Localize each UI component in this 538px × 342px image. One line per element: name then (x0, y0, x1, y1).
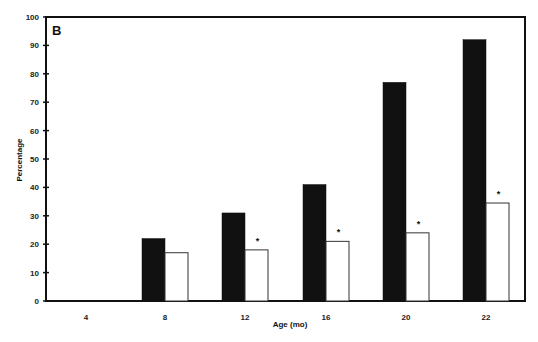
x-tick-label: 16 (322, 313, 331, 322)
y-tick-label: 60 (30, 127, 39, 136)
bar (222, 213, 245, 301)
significance-asterisk: * (256, 236, 260, 246)
bar (245, 250, 268, 301)
y-tick-label: 90 (30, 41, 39, 50)
y-tick-label: 80 (30, 70, 39, 79)
significance-asterisk: * (337, 227, 341, 237)
y-tick-label: 10 (30, 269, 39, 278)
x-tick-label: 20 (402, 313, 411, 322)
y-tick-label: 20 (30, 240, 39, 249)
y-tick-label: 30 (30, 212, 39, 221)
y-tick-label: 100 (26, 13, 40, 22)
y-tick-label: 0 (35, 297, 40, 306)
significance-asterisk: * (497, 189, 501, 199)
bar (383, 82, 406, 301)
bars: **** (142, 40, 509, 301)
y-tick-label: 50 (30, 155, 39, 164)
bar (406, 233, 429, 301)
bar (463, 40, 486, 301)
y-tick-label: 70 (30, 98, 39, 107)
bar (326, 241, 349, 301)
bar (142, 239, 165, 301)
bar (165, 253, 188, 301)
y-axis-title: Percentage (15, 138, 24, 182)
x-tick-label: 22 (482, 313, 491, 322)
bar (303, 185, 326, 301)
x-tick-label: 12 (241, 313, 250, 322)
x-tick-label: 8 (163, 313, 168, 322)
panel-label: B (52, 23, 61, 38)
bar-chart: 0102030405060708090100 **** 4812162022 B… (0, 0, 538, 342)
plot-frame (46, 17, 525, 301)
significance-asterisk: * (417, 219, 421, 229)
x-axis-title: Age (mo) (273, 320, 308, 329)
y-tick-label: 40 (30, 183, 39, 192)
x-tick-label: 4 (84, 313, 89, 322)
bar (486, 203, 509, 301)
